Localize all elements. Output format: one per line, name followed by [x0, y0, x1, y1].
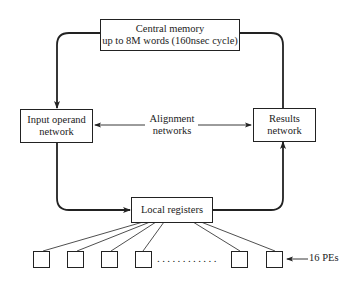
alignment-line1: Alignment — [146, 113, 198, 125]
results-network-line1: Results — [267, 113, 301, 125]
local-registers-label: Local registers — [141, 204, 203, 216]
central-memory-box: Central memory up to 8M words (160nsec c… — [100, 19, 240, 51]
input-network-line2: network — [27, 126, 86, 138]
pe-box-16 — [266, 251, 283, 268]
pes-count-label: 16 PEs — [309, 252, 338, 263]
input-to-registers-wire — [57, 142, 130, 210]
pe-box-2 — [67, 251, 84, 268]
pe-box-15 — [231, 251, 248, 268]
pe-box-4 — [135, 251, 152, 268]
pe-box-1 — [33, 251, 50, 268]
input-network-line1: Input operand — [27, 114, 86, 126]
alignment-line2: networks — [146, 125, 198, 137]
pe-ellipsis: ............ — [157, 253, 219, 263]
local-registers-box: Local registers — [131, 197, 213, 223]
results-to-memory-wire — [239, 33, 283, 108]
results-network-box: Results network — [253, 108, 316, 142]
registers-to-results-wire — [212, 142, 283, 210]
central-memory-line1: Central memory — [102, 23, 238, 35]
pe-box-3 — [101, 251, 118, 268]
memory-to-input-wire — [57, 33, 100, 108]
alignment-networks-label: Alignment networks — [146, 113, 198, 137]
input-operand-network-box: Input operand network — [20, 109, 93, 143]
central-memory-line2: up to 8M words (160nsec cycle) — [102, 35, 238, 47]
results-network-line2: network — [267, 125, 301, 137]
